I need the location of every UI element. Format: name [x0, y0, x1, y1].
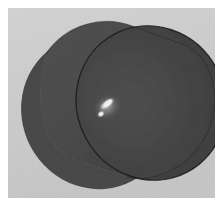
photo-frame	[0, 0, 223, 206]
photo-canvas	[8, 8, 215, 198]
film-grain-overlay	[8, 8, 215, 198]
scene-svg	[8, 8, 215, 198]
image-viewport	[0, 0, 223, 206]
